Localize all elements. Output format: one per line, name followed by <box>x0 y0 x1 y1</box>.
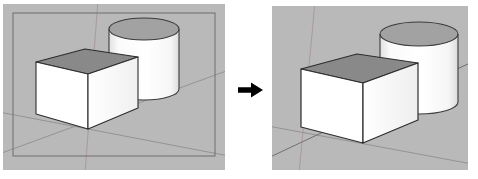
cylinder-top-face <box>109 18 179 40</box>
viewport-after[interactable]: after <box>272 6 468 170</box>
right-arrow-icon <box>238 82 264 98</box>
scene-before <box>3 4 225 170</box>
cylinder-top-face <box>380 22 458 46</box>
scene-after <box>272 6 468 170</box>
transition-arrow: → <box>235 80 267 100</box>
viewport-before[interactable]: before <box>3 4 225 170</box>
figure-comparison: before → <box>0 0 478 179</box>
